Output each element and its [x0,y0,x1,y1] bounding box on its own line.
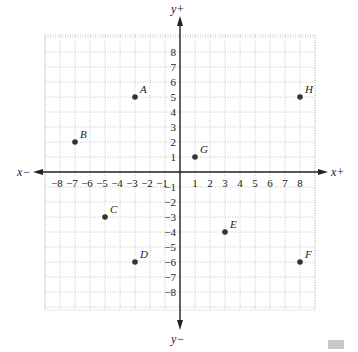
x-axis-positive-label: x+ [330,165,344,179]
x-tick-label: 8 [297,177,303,189]
x-tick-label: 3 [222,177,228,189]
x-tick-label: 6 [267,177,273,189]
point-label-a: A [139,83,147,95]
point-label-g: G [200,143,208,155]
x-tick-label: −6 [81,177,93,189]
point-d [132,259,138,265]
x-axis-negative-label: x− [16,165,30,179]
x-tick-label: 7 [282,177,288,189]
coordinate-plane: x−x+y+y−−8−7−6−5−4−3−2−11234567887654321… [0,0,358,352]
y-tick-label: 8 [171,46,177,58]
point-b [72,139,78,145]
point-label-b: B [80,128,87,140]
y-axis-positive-label: y+ [170,2,184,16]
y-tick-label: −7 [164,271,176,283]
y-tick-label: 7 [171,61,177,73]
point-label-h: H [304,83,314,95]
y-axis-negative-label: y− [170,332,184,346]
x-axis-right-arrow-icon [318,169,328,175]
point-g [192,154,198,160]
y-tick-label: −6 [164,256,176,268]
point-label-e: E [229,218,237,230]
y-tick-label: −5 [164,241,176,253]
y-axis-up-arrow-icon [177,16,183,26]
point-label-f: F [304,248,312,260]
x-tick-label: 2 [207,177,213,189]
y-tick-label: 1 [171,151,177,163]
x-tick-label: −3 [126,177,138,189]
y-tick-label: 3 [171,121,177,133]
point-f [297,259,303,265]
scroll-indicator [328,340,344,349]
y-tick-label: −1 [164,181,176,193]
x-tick-label: −8 [51,177,63,189]
point-label-c: C [110,203,118,215]
x-axis-left-arrow-icon [33,169,43,175]
point-h [297,94,303,100]
y-tick-label: 6 [171,76,177,88]
y-tick-label: 2 [171,136,177,148]
y-tick-label: −8 [164,286,176,298]
y-axis-down-arrow-icon [177,320,183,330]
y-tick-label: 4 [171,106,177,118]
point-e [222,229,228,235]
x-tick-label: −7 [66,177,78,189]
y-tick-label: −3 [164,211,176,223]
x-tick-label: −5 [96,177,108,189]
x-tick-label: −4 [111,177,123,189]
x-tick-label: 5 [252,177,258,189]
y-tick-label: −4 [164,226,176,238]
x-tick-label: −2 [141,177,153,189]
x-tick-label: 1 [192,177,198,189]
point-a [132,94,138,100]
point-label-d: D [139,248,148,260]
x-tick-label: 4 [237,177,243,189]
y-tick-label: −2 [164,196,176,208]
point-c [102,214,108,220]
y-tick-label: 5 [171,91,177,103]
